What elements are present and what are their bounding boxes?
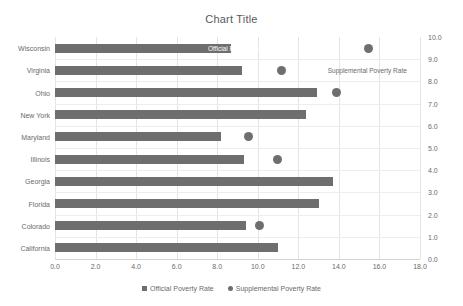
category-axis-line <box>55 259 420 260</box>
legend-circle-marker-icon <box>228 286 233 291</box>
category-axis-label: Maryland <box>21 133 50 140</box>
data-point-marker[interactable] <box>324 177 333 186</box>
gridline-horizontal <box>55 126 420 127</box>
data-point-marker[interactable] <box>277 66 286 75</box>
secondary-axis-tick-label: 2.0 <box>428 211 438 218</box>
secondary-axis-tick-label: 6.0 <box>428 122 438 129</box>
secondary-axis-tick-label: 4.0 <box>428 167 438 174</box>
category-axis: WisconsinVirginiaOhioNew YorkMarylandIll… <box>0 37 50 259</box>
data-point-marker[interactable] <box>364 44 373 53</box>
category-axis-label: Colorado <box>22 222 50 229</box>
chart-title: Chart Title <box>0 13 463 25</box>
secondary-axis-tick-label: 7.0 <box>428 100 438 107</box>
x-axis-tick-label: 0.0 <box>50 263 60 270</box>
secondary-axis-tick-label: 3.0 <box>428 189 438 196</box>
bar[interactable] <box>55 110 306 119</box>
plot-area: Official Poverty RateSupplemental Povert… <box>55 37 420 259</box>
x-axis-tick-label: 2.0 <box>91 263 101 270</box>
category-axis-label: Illinois <box>31 156 50 163</box>
category-axis-label: Ohio <box>35 89 50 96</box>
bar[interactable] <box>55 177 333 186</box>
x-axis-tick-label: 4.0 <box>131 263 141 270</box>
chart-container: Chart Title WisconsinVirginiaOhioNew Yor… <box>0 0 463 306</box>
secondary-axis-tick-label: 9.0 <box>428 56 438 63</box>
category-axis-label: Florida <box>29 200 50 207</box>
data-point-marker[interactable] <box>255 221 264 230</box>
bar[interactable] <box>55 44 231 53</box>
category-axis-label: Georgia <box>25 178 50 185</box>
legend-item-official[interactable]: Official Poverty Rate <box>142 285 214 292</box>
legend-label-supplemental: Supplemental Poverty Rate <box>236 285 321 292</box>
x-axis-tick-label: 10.0 <box>251 263 265 270</box>
x-axis-tick-label: 18.0 <box>413 263 427 270</box>
gridline-vertical <box>420 37 421 259</box>
legend-label-official: Official Poverty Rate <box>150 285 214 292</box>
gridline-horizontal <box>55 170 420 171</box>
bar[interactable] <box>55 132 221 141</box>
gridline-horizontal <box>55 81 420 82</box>
x-axis-tick-label: 6.0 <box>172 263 182 270</box>
data-point-marker[interactable] <box>244 132 253 141</box>
bar[interactable] <box>55 155 244 164</box>
secondary-axis-tick-label: 0.0 <box>428 256 438 263</box>
secondary-axis-tick-label: 8.0 <box>428 78 438 85</box>
bar[interactable] <box>55 199 319 208</box>
secondary-axis-tick-label: 5.0 <box>428 145 438 152</box>
bar[interactable] <box>55 243 278 252</box>
x-axis-tick-label: 14.0 <box>332 263 346 270</box>
secondary-axis-tick-label: 10.0 <box>428 34 442 41</box>
x-axis-tick-label: 16.0 <box>373 263 387 270</box>
series-label-official: Official Poverty Rate <box>208 45 267 52</box>
category-axis-label: Wisconsin <box>18 45 50 52</box>
legend-square-marker-icon <box>142 286 147 291</box>
gridline-horizontal <box>55 104 420 105</box>
bar[interactable] <box>55 221 246 230</box>
series-label-supplemental: Supplemental Poverty Rate <box>328 67 407 74</box>
gridline-horizontal <box>55 237 420 238</box>
x-axis-tick-label: 12.0 <box>292 263 306 270</box>
category-axis-label: New York <box>20 111 50 118</box>
gridline-horizontal <box>55 192 420 193</box>
category-axis-label: Virginia <box>27 67 50 74</box>
bar[interactable] <box>55 88 317 97</box>
gridline-horizontal <box>55 59 420 60</box>
gridline-horizontal <box>55 148 420 149</box>
data-point-marker[interactable] <box>273 155 282 164</box>
x-axis-tick-label: 8.0 <box>212 263 222 270</box>
category-axis-label: California <box>20 244 50 251</box>
data-point-marker[interactable] <box>332 88 341 97</box>
chart-legend: Official Poverty Rate Supplemental Pover… <box>0 285 463 292</box>
legend-item-supplemental[interactable]: Supplemental Poverty Rate <box>228 285 321 292</box>
secondary-axis-tick-label: 1.0 <box>428 233 438 240</box>
gridline-horizontal <box>55 215 420 216</box>
bar[interactable] <box>55 66 242 75</box>
